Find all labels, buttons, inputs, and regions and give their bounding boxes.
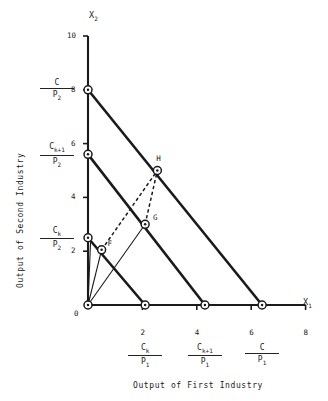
y-fraction-label-1: Ck+1P2 [40, 142, 74, 168]
x-fraction-label-2-bar [245, 353, 279, 354]
x-axis-symbol-sub: 1 [308, 302, 312, 309]
x-fraction-label-0-bar [128, 355, 162, 356]
series-budget-line-C [88, 90, 262, 305]
marker-point-1-center [87, 153, 90, 156]
y-fraction-label-1-bar [40, 155, 74, 156]
series-ray-origin-to-G [88, 224, 145, 305]
x-axis-symbol: X1 [303, 297, 312, 309]
y-axis-symbol-sub: 2 [94, 15, 98, 22]
marker-point-2-center [87, 237, 90, 240]
point-label-H: H [156, 154, 161, 163]
y-fraction-label-2-numerator: Ck [40, 226, 74, 237]
x-fraction-label-1-numerator: Ck+1 [188, 343, 222, 354]
x-tick-label-6: 6 [249, 329, 254, 337]
figure-canvas: X2 X1 0 Output of Second Industry Output… [0, 0, 328, 401]
marker-point-8-center [204, 304, 207, 307]
plot-svg [0, 0, 328, 401]
x-fraction-label-2-numerator: C [245, 343, 279, 352]
x-fraction-label-1: Ck+1P1 [188, 343, 222, 369]
y-fraction-label-2: CkP2 [40, 226, 74, 252]
marker-point-H-center [156, 169, 159, 172]
y-tick-label-10: 10 [67, 32, 76, 40]
marker-point-G-center [144, 223, 147, 226]
origin-label: 0 [74, 310, 79, 318]
x-fraction-label-0: CkP1 [128, 343, 162, 369]
marker-point-F-center [100, 249, 103, 252]
marker-point-6-center [87, 304, 90, 307]
x-axis-caption: Output of First Industry [133, 381, 263, 390]
marker-point-9-center [261, 304, 264, 307]
y-tick-label-4: 4 [71, 193, 76, 201]
marker-point-7-center [144, 304, 147, 307]
y-axis-caption: Output of Second Industry [16, 153, 25, 288]
point-label-G: G [153, 213, 158, 222]
y-fraction-label-0-numerator: C [40, 78, 74, 87]
x-fraction-label-1-denominator: P1 [188, 357, 222, 368]
x-fraction-label-1-bar [188, 355, 222, 356]
x-tick-label-2: 2 [140, 329, 145, 337]
marker-point-0-center [87, 89, 90, 92]
series-budget-line-C-k-plus-1 [88, 154, 205, 305]
x-fraction-label-2-denominator: P1 [245, 355, 279, 366]
y-fraction-label-1-denominator: P2 [40, 157, 74, 168]
y-fraction-label-0: CP2 [40, 78, 74, 102]
x-fraction-label-0-numerator: Ck [128, 343, 162, 354]
y-axis-symbol: X2 [89, 10, 98, 22]
x-fraction-label-0-denominator: P1 [128, 357, 162, 368]
y-fraction-label-0-denominator: P2 [40, 90, 74, 101]
x-tick-label-8: 8 [304, 329, 309, 337]
y-fraction-label-1-numerator: Ck+1 [40, 142, 74, 153]
x-tick-label-4: 4 [195, 329, 200, 337]
y-fraction-label-2-denominator: P2 [40, 240, 74, 251]
y-fraction-label-2-bar [40, 238, 74, 239]
point-label-F: F [108, 239, 113, 248]
y-fraction-label-0-bar [40, 88, 74, 89]
x-fraction-label-2: CP1 [245, 343, 279, 367]
